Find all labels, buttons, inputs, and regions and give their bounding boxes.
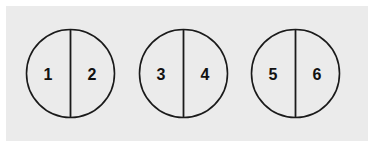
circle-2-right-label: 4 [201, 66, 210, 83]
circle-group-2: 3 4 [140, 30, 228, 118]
circle-1-right-label: 2 [88, 66, 97, 83]
circle-1-left-label: 1 [44, 66, 53, 83]
circle-2-left-label: 3 [157, 66, 166, 83]
circle-3-left-label: 5 [269, 66, 278, 83]
circles-figure: 1 2 3 4 5 6 [0, 0, 376, 148]
circle-group-3: 5 6 [252, 30, 340, 118]
circle-3-right-label: 6 [313, 66, 322, 83]
circle-group-1: 1 2 [27, 30, 115, 118]
figure-canvas: 1 2 3 4 5 6 [0, 0, 376, 148]
